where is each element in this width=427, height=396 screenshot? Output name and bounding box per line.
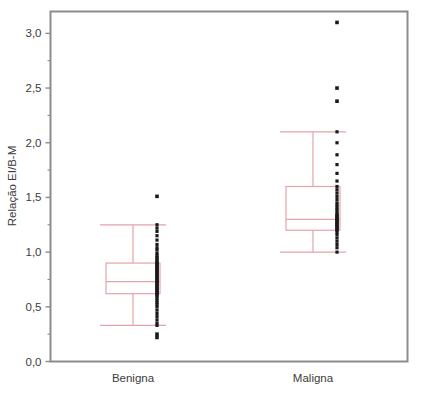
data-point	[155, 238, 158, 241]
data-point	[335, 195, 338, 198]
data-point	[335, 240, 338, 243]
data-point	[155, 305, 158, 308]
y-tick-label: 1,0	[26, 246, 42, 258]
y-tick-label: 2,5	[26, 82, 42, 94]
y-tick-label: 3,0	[26, 27, 42, 39]
x-category-label: Benigna	[112, 372, 155, 384]
data-point	[335, 233, 338, 236]
y-tick-label: 0,5	[26, 301, 42, 313]
box-iqr-rect	[106, 263, 160, 294]
data-point	[335, 141, 338, 144]
data-point	[155, 243, 158, 246]
data-point	[335, 191, 338, 194]
data-point	[155, 308, 158, 311]
data-point	[335, 246, 338, 249]
data-point	[335, 188, 338, 191]
outlier-point	[335, 86, 339, 90]
data-point	[335, 198, 338, 201]
data-point	[155, 312, 158, 315]
outlier-point	[155, 195, 159, 199]
data-point	[155, 315, 158, 318]
y-tick-label: 0,0	[26, 356, 42, 368]
plot-border	[51, 12, 408, 362]
outlier-point	[335, 99, 339, 103]
box-plot-group	[100, 195, 166, 340]
x-axis-category-labels: BenignaMaligna	[112, 372, 334, 384]
data-point	[155, 318, 158, 321]
data-point	[335, 172, 338, 175]
x-category-label: Maligna	[293, 372, 334, 384]
outlier-point	[155, 332, 159, 336]
box-plot-figure: 0,00,51,01,52,02,53,0 Relação EI/B-M Ben…	[0, 0, 427, 396]
y-axis-tick-labels: 0,00,51,01,52,02,53,0	[26, 27, 42, 367]
y-axis-title: Relação EI/B-M	[6, 146, 18, 227]
data-point	[335, 243, 338, 246]
data-point	[335, 185, 338, 188]
box-iqr-rect	[286, 187, 340, 231]
data-point	[335, 179, 338, 182]
data-point	[335, 251, 338, 254]
outlier-point	[335, 21, 339, 25]
data-point	[335, 163, 338, 166]
y-tick-label: 2,0	[26, 137, 42, 149]
data-point	[155, 324, 158, 327]
data-point	[155, 248, 158, 251]
data-point	[155, 226, 158, 229]
data-point	[335, 130, 338, 133]
data-point	[155, 223, 158, 226]
box-plot-group	[280, 21, 346, 254]
data-point	[335, 236, 338, 239]
outlier-point	[155, 336, 159, 340]
chart-canvas: 0,00,51,01,52,02,53,0 Relação EI/B-M Ben…	[0, 0, 427, 396]
box-plot-series-group	[100, 21, 346, 340]
data-point	[155, 230, 158, 233]
data-point	[155, 234, 158, 237]
plot-frame	[51, 12, 408, 362]
data-point	[335, 153, 338, 156]
y-tick-label: 1,5	[26, 191, 42, 203]
